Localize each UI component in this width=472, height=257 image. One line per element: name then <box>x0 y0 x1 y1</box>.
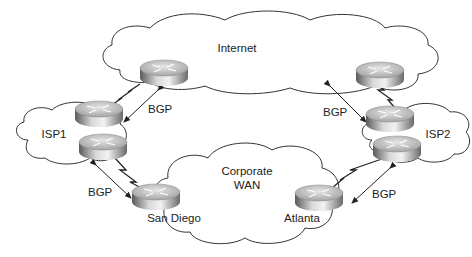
router-internet-left-icon <box>140 60 188 86</box>
internet-label: Internet <box>218 42 258 54</box>
router-isp1-top-icon <box>75 101 123 127</box>
network-diagram: Internet ISP1 ISP2 Corporate WAN San Die… <box>0 0 472 257</box>
corporate-wan-label-line2: WAN <box>234 179 260 191</box>
router-isp2-top-icon <box>366 106 414 132</box>
router-isp1-bottom-icon <box>79 134 127 160</box>
corporate-wan-label-line1: Corporate <box>221 165 272 177</box>
isp2-label: ISP2 <box>426 128 451 140</box>
router-san-diego-icon <box>132 184 180 210</box>
isp1-label: ISP1 <box>42 128 67 140</box>
router-isp2-bottom-icon <box>373 136 421 162</box>
bgp-label-isp2-internet: BGP <box>323 106 348 118</box>
atlanta-label: Atlanta <box>284 212 320 224</box>
san-diego-label: San Diego <box>147 212 201 224</box>
router-atlanta-icon <box>295 185 343 211</box>
router-internet-right-icon <box>356 62 404 88</box>
bgp-label-isp1-internet: BGP <box>148 103 173 115</box>
bgp-label-isp1-sandiego: BGP <box>88 186 113 198</box>
bgp-label-isp2-atlanta: BGP <box>372 188 397 200</box>
